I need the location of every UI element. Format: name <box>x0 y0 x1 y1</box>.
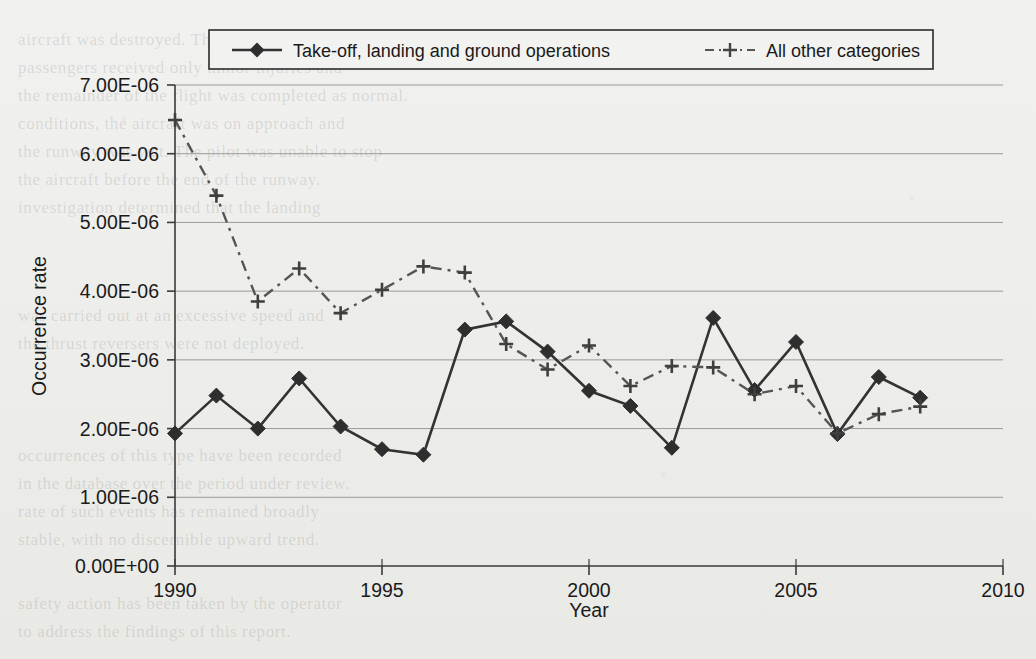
plus-marker-icon <box>251 294 265 308</box>
chart-canvas: 0.00E+001.00E-062.00E-063.00E-064.00E-06… <box>0 0 1036 659</box>
diamond-marker-icon <box>416 447 431 462</box>
x-axis-tick-label: 1990 <box>153 579 197 601</box>
series-line <box>175 120 920 433</box>
plus-marker-icon <box>582 338 596 352</box>
diamond-marker-icon <box>706 310 721 325</box>
plus-marker-icon <box>292 261 306 275</box>
plus-marker-icon <box>168 113 182 127</box>
y-axis-tick-label: 0.00E+00 <box>75 555 159 577</box>
x-axis-tick-label: 2000 <box>567 579 611 601</box>
y-axis-tick-label: 7.00E-06 <box>80 74 159 96</box>
y-axis-tick-label: 6.00E-06 <box>80 143 159 165</box>
y-axis-title: Occurrence rate <box>28 256 50 396</box>
plus-marker-icon <box>789 379 803 393</box>
x-axis-tick-label: 2010 <box>981 579 1025 601</box>
plus-marker-icon <box>458 266 472 280</box>
y-axis-tick-label: 4.00E-06 <box>80 280 159 302</box>
x-axis-tick-label: 2005 <box>774 579 818 601</box>
chart-legend: Take-off, landing and ground operations … <box>209 30 933 69</box>
y-axis-tick-label: 3.00E-06 <box>80 349 159 371</box>
x-axis-tick-labels: 19901995200020052010 <box>153 579 1025 601</box>
plus-marker-icon <box>375 283 389 297</box>
series-line <box>175 318 920 455</box>
y-axis-tick-label: 5.00E-06 <box>80 211 159 233</box>
diamond-marker-icon <box>457 322 472 337</box>
occurrence-rate-line-chart: 0.00E+001.00E-062.00E-063.00E-064.00E-06… <box>0 0 1036 659</box>
y-axis-ticks <box>167 85 175 566</box>
plus-marker-icon <box>541 362 555 376</box>
plus-marker-icon <box>913 400 927 414</box>
plus-marker-icon <box>334 306 348 320</box>
plus-marker-icon <box>706 360 720 374</box>
plus-marker-icon <box>209 189 223 203</box>
y-axis-tick-label: 2.00E-06 <box>80 418 159 440</box>
data-series-takeoff-landing-ground <box>168 310 928 462</box>
plus-marker-icon <box>416 259 430 273</box>
x-axis-tick-label: 1995 <box>360 579 404 601</box>
diamond-marker-icon <box>375 442 390 457</box>
plus-marker-icon <box>665 359 679 373</box>
plus-marker-icon <box>872 407 886 421</box>
data-series-all-other-categories <box>168 113 927 440</box>
x-axis-title: Year <box>569 599 609 621</box>
y-axis-tick-labels: 0.00E+001.00E-062.00E-063.00E-064.00E-06… <box>75 74 159 577</box>
y-axis-tick-label: 1.00E-06 <box>80 486 159 508</box>
gridlines <box>175 85 1003 497</box>
x-axis-ticks <box>175 559 1003 575</box>
legend-label-all-other-categories: All other categories <box>766 41 920 61</box>
axes <box>175 85 1003 566</box>
plus-marker-icon <box>499 337 513 351</box>
legend-label-takeoff-landing-ground: Take-off, landing and ground operations <box>293 41 610 61</box>
data-series-layer <box>168 113 928 462</box>
